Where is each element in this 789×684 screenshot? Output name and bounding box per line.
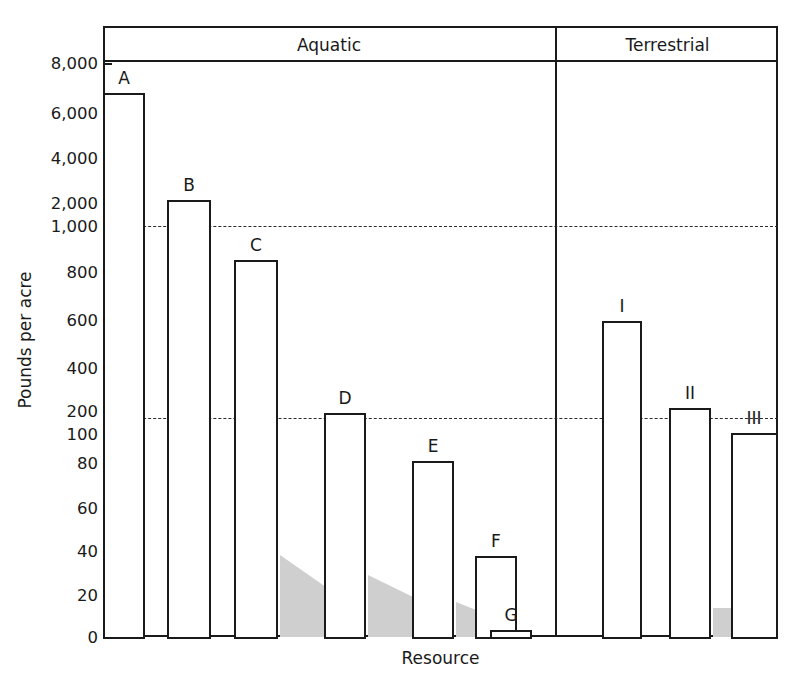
bar-a[interactable] xyxy=(103,93,145,639)
y-tick-label-8000: 8,000 xyxy=(51,54,98,73)
y-tick-label-1000: 1,000 xyxy=(51,217,98,236)
y-tick-label-6000: 6,000 xyxy=(51,104,98,123)
y-tick-label-0: 0 xyxy=(88,628,99,647)
group-label-terrestrial: Terrestrial xyxy=(557,30,778,60)
y-tick-label-200: 200 xyxy=(67,402,99,421)
bar-label-g: G xyxy=(504,605,517,625)
bar-label-e: E xyxy=(428,436,439,456)
y-tick-label-100: 100 xyxy=(67,425,99,444)
bar-chart-figure: 8,000 6,000 4,000 2,000 1,000 800 600 40… xyxy=(0,0,789,684)
y-tick-label-80: 80 xyxy=(77,454,98,473)
bar-d[interactable] xyxy=(324,413,366,639)
y-tick-label-4000: 4,000 xyxy=(51,149,98,168)
bar-b[interactable] xyxy=(167,200,211,639)
bar-label-d: D xyxy=(338,388,351,408)
bar-iii[interactable] xyxy=(731,433,778,639)
bar-label-c: C xyxy=(250,235,262,255)
y-tick-label-60: 60 xyxy=(77,499,98,518)
y-tick-label-800: 800 xyxy=(67,263,99,282)
bar-label-a: A xyxy=(118,68,130,88)
bar-e[interactable] xyxy=(412,461,454,639)
bar-label-ii: II xyxy=(685,383,695,403)
bar-label-iii: III xyxy=(746,408,761,428)
y-tick-label-40: 40 xyxy=(77,542,98,561)
y-tick-label-400: 400 xyxy=(67,359,99,378)
bar-label-f: F xyxy=(491,531,501,551)
bar-c[interactable] xyxy=(234,260,278,639)
bar-label-i: I xyxy=(619,296,624,316)
x-axis-title: Resource xyxy=(103,648,778,668)
bar-ii[interactable] xyxy=(669,408,711,639)
group-label-aquatic: Aquatic xyxy=(103,30,555,60)
y-tick-label-600: 600 xyxy=(67,311,99,330)
y-tick-label-20: 20 xyxy=(77,586,98,605)
bar-i[interactable] xyxy=(602,321,642,639)
bar-f[interactable] xyxy=(475,556,517,639)
bar-g[interactable] xyxy=(490,630,532,639)
y-axis-title: Pounds per acre xyxy=(15,240,35,440)
y-tick-label-2000: 2,000 xyxy=(51,194,98,213)
bar-label-b: B xyxy=(183,175,195,195)
